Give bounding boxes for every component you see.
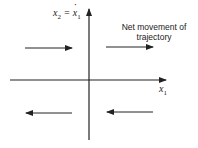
x-axis-label: x1 (159, 84, 167, 98)
annotation-line2: trajectory (116, 32, 192, 42)
y-label-rhs-var: x (73, 7, 77, 18)
trajectory-annotation: Net movement of trajectory (116, 22, 192, 42)
x-label-sub: 1 (163, 89, 167, 97)
y-label-rhs-sub: 1 (77, 13, 81, 21)
phase-plane-diagram: x2 = x1 Net movement of trajectory x1 (0, 0, 198, 148)
y-label-eq: = (61, 7, 73, 18)
y-axis-label: x2 = x1 (53, 8, 81, 22)
annotation-line1: Net movement of (116, 22, 192, 32)
